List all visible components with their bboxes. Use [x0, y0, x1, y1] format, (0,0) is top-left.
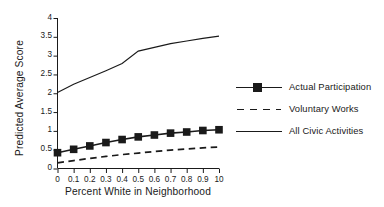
legend-label-voluntary-works: Voluntary Works [289, 103, 359, 115]
y-tick-label: 4 [20, 13, 52, 22]
legend-item-voluntary-works: Voluntary Works [236, 102, 359, 116]
legend-label-all-civic-activities: All Civic Activities [289, 125, 363, 137]
legend-label-actual-participation: Actual Participation [289, 81, 371, 93]
data-point-marker [215, 126, 223, 134]
legend-swatch-solid-square-icon [236, 81, 282, 93]
y-tick-label: 0 [20, 163, 52, 172]
data-point-marker [54, 149, 62, 157]
data-point-marker [167, 129, 175, 137]
y-tick-label: 3 [20, 50, 52, 59]
x-tick-label: 10 [208, 175, 230, 184]
data-point-marker [183, 128, 191, 136]
y-tick-label: 1.5 [20, 107, 52, 116]
data-point-marker [86, 142, 94, 150]
legend-item-all-civic-activities: All Civic Activities [236, 124, 363, 138]
legend-swatch-dashed-line-icon [236, 103, 282, 115]
data-point-marker [151, 131, 159, 139]
y-tick-label: 3.5 [20, 31, 52, 40]
y-tick-label: 2 [20, 88, 52, 97]
data-point-marker [199, 127, 207, 135]
x-axis-title: Percent White in Neighborhood [57, 186, 219, 197]
y-tick-label: 1 [20, 125, 52, 134]
legend-swatch-solid-line-icon [236, 125, 282, 137]
data-point-marker [118, 136, 126, 144]
data-point-marker [134, 133, 142, 141]
legend-item-actual-participation: Actual Participation [236, 80, 371, 94]
y-tick-label: 0.5 [20, 144, 52, 153]
data-point-marker [70, 146, 78, 154]
y-tick-label: 2.5 [20, 69, 52, 78]
data-point-marker [102, 139, 110, 147]
